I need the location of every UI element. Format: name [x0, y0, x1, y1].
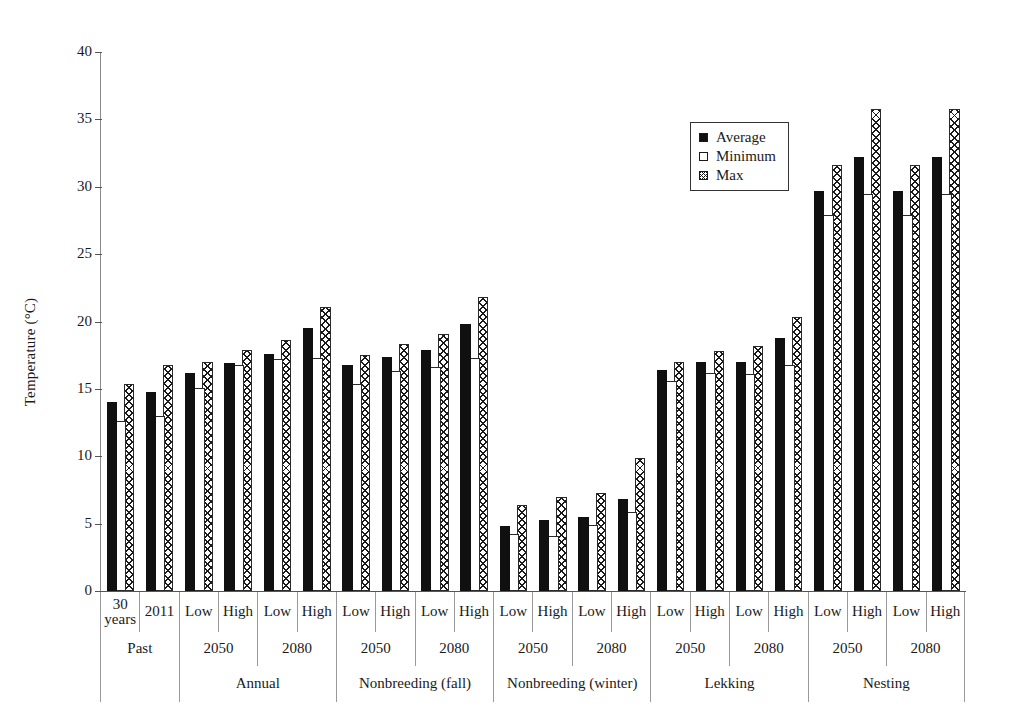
bar-average — [146, 392, 156, 591]
bar-group — [337, 52, 376, 591]
bar-average — [696, 362, 706, 591]
x-axis-year-cell: Past — [100, 632, 179, 666]
bar-average — [264, 354, 274, 591]
y-axis-tick-label: 35 — [52, 111, 92, 126]
x-axis-year-cell: 2080 — [572, 632, 651, 666]
y-axis-tick-label: 25 — [52, 246, 92, 261]
x-axis-scenario-cell: High — [768, 592, 807, 632]
x-axis-scenario-cell: High — [532, 592, 571, 632]
bar-average — [618, 499, 628, 591]
x-axis-scenario-cell: High — [375, 592, 414, 632]
x-axis-season-cell: Lekking — [650, 666, 807, 702]
bar-average — [736, 362, 746, 591]
chart-figure: Temperature (°C) 0510152025303540 Averag… — [0, 0, 1018, 708]
bar-average — [107, 402, 117, 591]
chart-legend: Average Minimum Max — [690, 122, 789, 191]
x-axis-season-cell: Nonbreeding (winter) — [493, 666, 650, 702]
bar-group — [927, 52, 966, 591]
x-axis-scenario-cell: 30years — [100, 592, 139, 632]
x-axis-year-cell: 2080 — [729, 632, 808, 666]
y-axis-tick-label: 40 — [52, 44, 92, 59]
bar-group — [494, 52, 533, 591]
bar-average — [854, 157, 864, 591]
legend-label-average: Average — [716, 129, 766, 146]
legend-item-max: Max — [699, 166, 776, 185]
bar-group — [258, 52, 297, 591]
bar-average — [460, 324, 470, 591]
x-axis-year-cell: 2080 — [257, 632, 336, 666]
bar-average — [775, 338, 785, 591]
bar-average — [382, 357, 392, 591]
bar-average — [539, 520, 549, 591]
x-axis-scenario-cell: Low — [336, 592, 375, 632]
y-axis-tick-label: 20 — [52, 314, 92, 329]
bar-average — [814, 191, 824, 591]
x-axis-row-year: Past205020802050208020502080205020802050… — [100, 632, 966, 666]
x-axis-table: 30years2011LowHighLowHighLowHighLowHighL… — [100, 592, 966, 702]
bar-group — [809, 52, 848, 591]
x-axis-scenario-cell: High — [454, 592, 493, 632]
x-axis-scenario-cell: Low — [572, 592, 611, 632]
x-axis-season-cell: Annual — [179, 666, 336, 702]
bar-group — [376, 52, 415, 591]
x-axis-year-cell: 2050 — [493, 632, 572, 666]
bar-group — [534, 52, 573, 591]
plot-area — [101, 52, 966, 591]
x-axis-scenario-cell: 2011 — [139, 592, 178, 632]
legend-swatch-max-icon — [699, 171, 708, 180]
y-axis-tick-label: 30 — [52, 179, 92, 194]
x-axis-scenario-cell: High — [611, 592, 650, 632]
bar-average — [578, 517, 588, 591]
x-axis-scenario-cell: Low — [886, 592, 925, 632]
bar-group — [180, 52, 219, 591]
bar-average — [303, 328, 313, 591]
legend-item-minimum: Minimum — [699, 147, 776, 166]
y-axis-tick-label: 5 — [52, 516, 92, 531]
bar-average — [224, 363, 234, 591]
x-axis-scenario-cell: High — [690, 592, 729, 632]
y-axis-tick-label: 0 — [52, 583, 92, 598]
bar-group — [612, 52, 651, 591]
bar-average — [893, 191, 903, 591]
bar-group — [140, 52, 179, 591]
x-axis-scenario-cell: Low — [650, 592, 689, 632]
x-axis-season-cell: Nonbreeding (fall) — [336, 666, 493, 702]
x-axis-scenario-cell: Low — [729, 592, 768, 632]
bar-group — [298, 52, 337, 591]
x-axis-scenario-cell: Low — [257, 592, 296, 632]
x-axis-year-cell: 2080 — [886, 632, 965, 666]
bar-group — [219, 52, 258, 591]
x-axis-scenario-label: years — [104, 612, 136, 627]
x-axis-row-scenario: 30years2011LowHighLowHighLowHighLowHighL… — [100, 592, 966, 632]
legend-item-average: Average — [699, 128, 776, 147]
x-axis-scenario-cell: Low — [493, 592, 532, 632]
x-axis-scenario-cell: Low — [808, 592, 847, 632]
x-axis-season-cell — [100, 666, 179, 702]
x-axis-year-cell: 2080 — [415, 632, 494, 666]
x-axis-scenario-label: 30 — [113, 597, 128, 612]
bar-group — [455, 52, 494, 591]
x-axis-scenario-cell: High — [847, 592, 886, 632]
bar-group — [848, 52, 887, 591]
legend-label-minimum: Minimum — [716, 148, 776, 165]
bar-group — [101, 52, 140, 591]
bar-group — [416, 52, 455, 591]
x-axis-year-cell: 2050 — [336, 632, 415, 666]
bar-average — [657, 370, 667, 591]
y-axis-tick-label: 10 — [52, 448, 92, 463]
legend-swatch-minimum-icon — [699, 152, 708, 161]
x-axis-row-season: AnnualNonbreeding (fall)Nonbreeding (win… — [100, 666, 966, 702]
y-axis-title: Temperature (°C) — [22, 52, 42, 252]
x-axis-year-cell: 2050 — [808, 632, 887, 666]
x-axis-scenario-cell: High — [218, 592, 257, 632]
bar-average — [421, 350, 431, 591]
x-axis-scenario-cell: Low — [179, 592, 218, 632]
bar-average — [342, 365, 352, 591]
x-axis-scenario-cell: Low — [415, 592, 454, 632]
x-axis-year-cell: 2050 — [179, 632, 258, 666]
bar-average — [500, 526, 510, 591]
legend-label-max: Max — [716, 167, 744, 184]
y-axis-tick-label: 15 — [52, 381, 92, 396]
legend-swatch-average-icon — [699, 133, 708, 142]
x-axis-season-cell: Nesting — [808, 666, 965, 702]
